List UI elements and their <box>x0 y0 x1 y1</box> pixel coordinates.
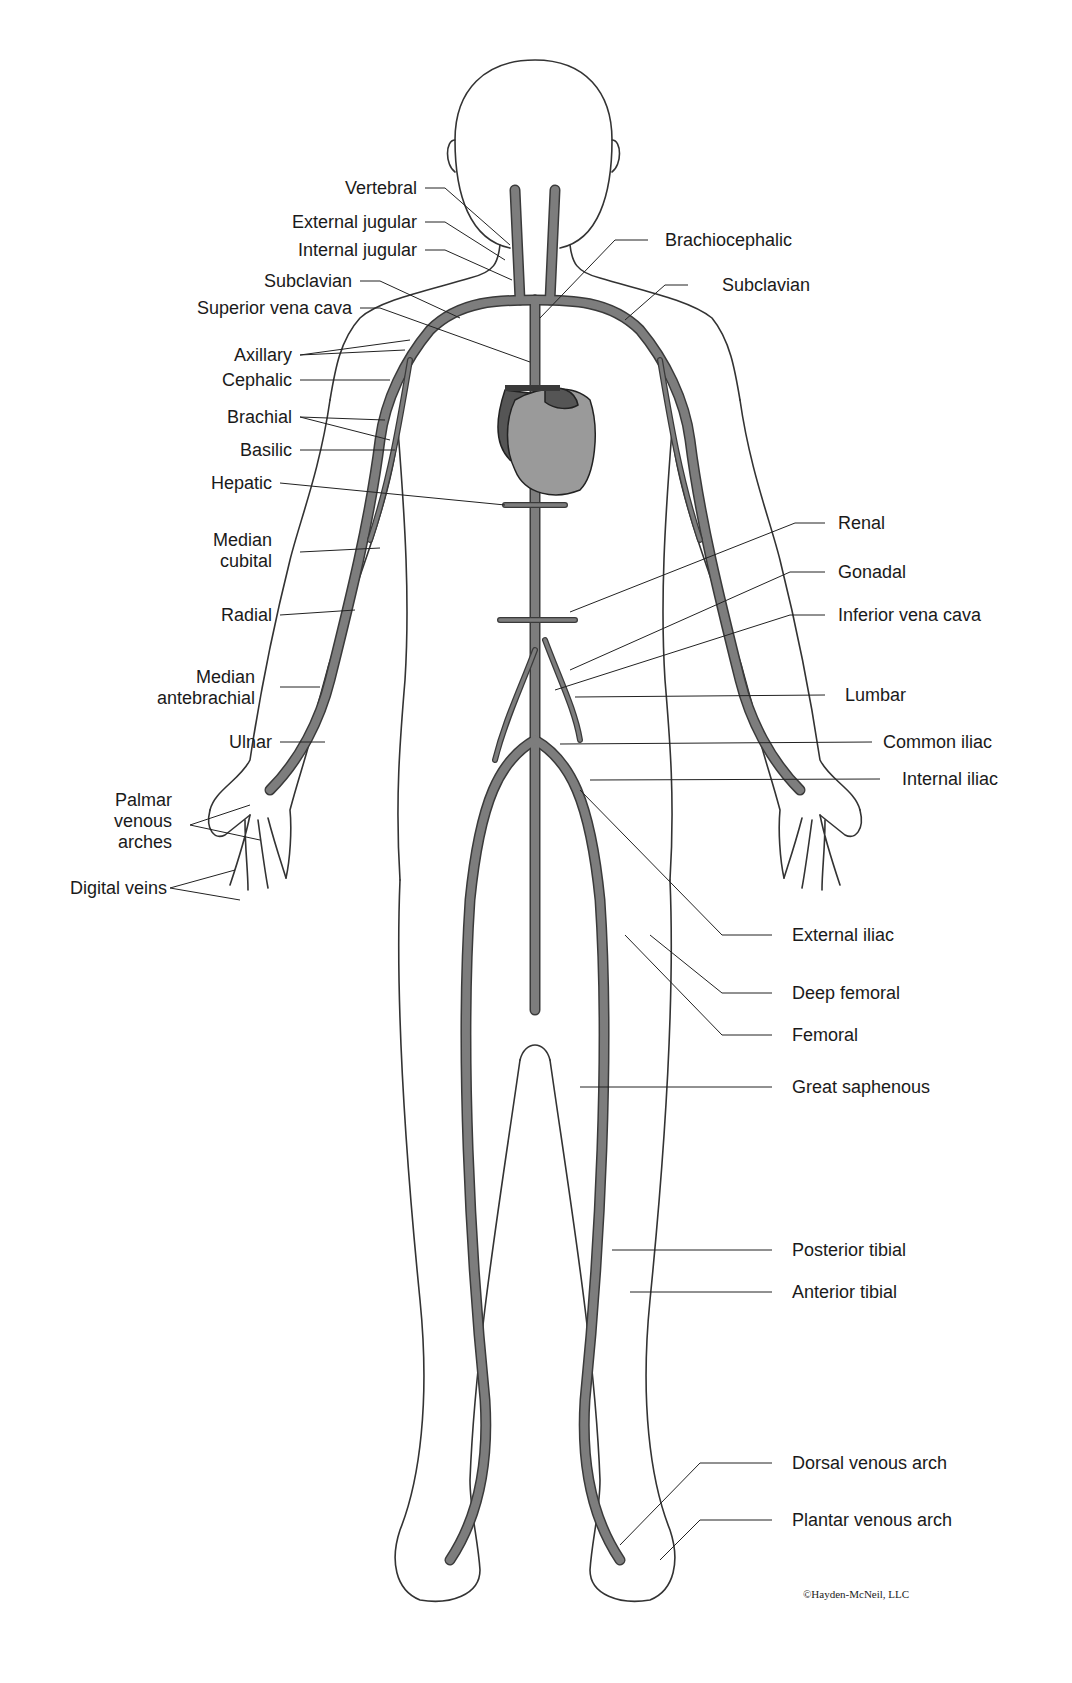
label-lumbar: Lumbar <box>845 685 906 706</box>
label-plantar-venous-arch: Plantar venous arch <box>792 1510 952 1531</box>
label-brachial: Brachial <box>227 407 292 428</box>
label-vertebral: Vertebral <box>345 178 417 199</box>
label-anterior-tibial: Anterior tibial <box>792 1282 897 1303</box>
label-superior-vena-cava: Superior vena cava <box>197 298 352 319</box>
label-internal-jugular: Internal jugular <box>298 240 417 261</box>
label-posterior-tibial: Posterior tibial <box>792 1240 906 1261</box>
label-median-cubital: Median cubital <box>213 530 272 572</box>
label-axillary: Axillary <box>234 345 292 366</box>
label-hepatic: Hepatic <box>211 473 272 494</box>
label-subclavian-right: Subclavian <box>722 275 810 296</box>
label-cephalic: Cephalic <box>222 370 292 391</box>
label-subclavian-left: Subclavian <box>264 271 352 292</box>
label-external-iliac: External iliac <box>792 925 894 946</box>
label-external-jugular: External jugular <box>292 212 417 233</box>
label-radial: Radial <box>221 605 272 626</box>
label-palmar-venous-arches: Palmar venous arches <box>114 790 172 853</box>
label-dorsal-venous-arch: Dorsal venous arch <box>792 1453 947 1474</box>
label-gonadal: Gonadal <box>838 562 906 583</box>
label-femoral: Femoral <box>792 1025 858 1046</box>
label-inferior-vena-cava: Inferior vena cava <box>838 605 981 626</box>
label-renal: Renal <box>838 513 885 534</box>
label-median-antebrachial: Median antebrachial <box>157 667 255 709</box>
label-basilic: Basilic <box>240 440 292 461</box>
label-brachiocephalic: Brachiocephalic <box>665 230 792 251</box>
heart <box>498 388 595 495</box>
copyright-notice: ©Hayden-McNeil, LLC <box>803 1588 909 1600</box>
label-digital-veins: Digital veins <box>70 878 167 899</box>
label-ulnar: Ulnar <box>229 732 272 753</box>
label-internal-iliac: Internal iliac <box>902 769 998 790</box>
label-great-saphenous: Great saphenous <box>792 1077 930 1098</box>
label-deep-femoral: Deep femoral <box>792 983 900 1004</box>
label-common-iliac: Common iliac <box>883 732 992 753</box>
